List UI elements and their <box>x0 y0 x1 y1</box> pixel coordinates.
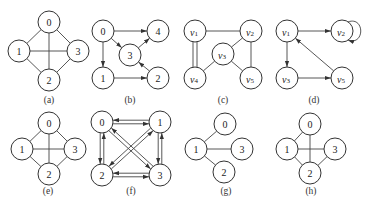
edges <box>27 30 70 73</box>
node-label: 0 <box>223 119 228 130</box>
edge-1-2 <box>204 156 215 165</box>
graph-node-3: 3 <box>231 138 253 160</box>
graph-node-3: 3 <box>324 138 346 160</box>
node-label: 2 <box>222 167 227 178</box>
graph-panel-c: v1v2v3v4v5(c) <box>184 20 262 106</box>
edge-0-3 <box>57 30 70 43</box>
edge-v2-v3 <box>231 38 242 47</box>
edge-1-2 <box>109 128 151 166</box>
node-label: 2 <box>308 168 313 179</box>
graph-node-3: 3 <box>64 138 86 160</box>
graph-node-0: 0 <box>91 111 113 133</box>
panel-caption: (e) <box>43 186 54 197</box>
graph-node-0: 0 <box>214 113 236 135</box>
edge-1-2 <box>295 157 303 165</box>
edge-2-3 <box>318 157 327 166</box>
edge-v5-v1 <box>295 38 333 71</box>
edge-2-3 <box>138 62 149 71</box>
graph-panel-f: 0123(f) <box>91 111 171 197</box>
graph-node-2: 2 <box>38 163 60 185</box>
node-label: 0 <box>101 26 106 37</box>
edges <box>294 132 327 165</box>
edge-3-0 <box>111 128 153 166</box>
edge-0-3 <box>111 38 122 47</box>
panel-caption: (a) <box>44 95 55 106</box>
node-label: 3 <box>240 144 245 155</box>
edge-0-3 <box>57 131 67 141</box>
graph-node-4: 4 <box>147 20 169 42</box>
node-label: 3 <box>76 46 81 57</box>
graph-node-1: 1 <box>92 67 114 89</box>
graph-node-1: 1 <box>185 138 207 160</box>
graph-node-v3: v3 <box>212 43 234 65</box>
graph-node-v2: v2 <box>240 20 262 42</box>
node-label: 3 <box>158 170 163 181</box>
node-label: 1 <box>101 73 106 84</box>
graph-panel-e: 0132(e) <box>11 112 86 197</box>
graph-node-1: 1 <box>149 111 171 133</box>
graph-node-2: 2 <box>38 69 60 91</box>
edge-3-4 <box>138 38 149 48</box>
graph-node-v1: v1 <box>184 20 206 42</box>
graph-node-v5: v5 <box>331 67 353 89</box>
panel-caption: (f) <box>126 186 136 197</box>
edge-0-3 <box>109 131 151 169</box>
edge-2-3 <box>57 157 67 167</box>
node-label: 2 <box>47 169 52 180</box>
graph-panel-h: 0132(h) <box>276 113 346 197</box>
graph-node-v3: v3 <box>276 67 298 89</box>
graph-panel-g: 0132(g) <box>185 113 253 197</box>
node-label: 1 <box>194 144 199 155</box>
node-label: 2 <box>100 170 105 181</box>
edge-v3-v5 <box>231 61 242 71</box>
node-label: 0 <box>47 17 52 28</box>
edge-0-1 <box>294 132 302 141</box>
node-label: 1 <box>285 144 290 155</box>
node-label: 0 <box>308 119 313 130</box>
edge-2-1 <box>111 131 153 169</box>
graph-node-1: 1 <box>11 138 33 160</box>
panel-caption: (b) <box>124 95 135 106</box>
graph-node-0: 0 <box>38 112 60 134</box>
graph-panel-a: 0132(a) <box>8 11 89 106</box>
panel-caption: (d) <box>308 95 319 106</box>
edge-0-1 <box>30 131 41 142</box>
edge-0-1 <box>27 30 41 44</box>
graph-node-0: 0 <box>92 20 114 42</box>
graph-node-0: 0 <box>38 11 60 33</box>
graph-node-2: 2 <box>299 162 321 184</box>
panel-caption: (g) <box>220 186 231 197</box>
panel-caption: (h) <box>305 186 316 197</box>
graph-node-3: 3 <box>119 44 141 66</box>
graph-node-v2: v2 <box>331 20 353 42</box>
edge-1-2 <box>30 156 41 166</box>
graph-node-v5: v5 <box>240 67 262 89</box>
node-label: 1 <box>158 117 163 128</box>
node-label: 2 <box>47 75 52 86</box>
node-label: 4 <box>156 26 161 37</box>
graph-node-v4: v4 <box>184 67 206 89</box>
panel-caption: (c) <box>218 95 229 106</box>
graph-node-2: 2 <box>91 164 113 186</box>
edge-0-1 <box>204 131 216 142</box>
graph-node-3: 3 <box>149 164 171 186</box>
node-label: 3 <box>333 144 338 155</box>
edges <box>204 131 231 165</box>
graph-panel-b: 04312(b) <box>92 20 169 106</box>
graph-node-2: 2 <box>213 161 235 183</box>
edge-2-3 <box>57 59 70 72</box>
graph-node-2: 2 <box>147 67 169 89</box>
edge-1-2 <box>27 59 41 73</box>
node-label: 3 <box>73 144 78 155</box>
graph-node-1: 1 <box>8 40 30 62</box>
graph-node-0: 0 <box>299 113 321 135</box>
node-label: 1 <box>17 46 22 57</box>
graph-panel-d: v1v2v3v5(d) <box>276 20 361 106</box>
node-label: 0 <box>100 117 105 128</box>
graph-node-v1: v1 <box>276 20 298 42</box>
node-label: 3 <box>128 50 133 61</box>
node-label: 2 <box>156 73 161 84</box>
graph-node-1: 1 <box>276 138 298 160</box>
edge-v3-v4 <box>203 61 214 71</box>
graph-node-3: 3 <box>67 40 89 62</box>
